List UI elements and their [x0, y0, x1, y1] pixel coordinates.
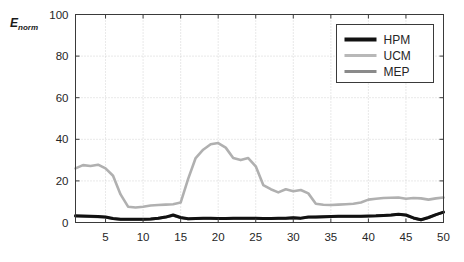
y-tick-label: 100	[49, 9, 68, 21]
y-tick-label: 0	[62, 217, 68, 229]
x-tick-label: 50	[437, 231, 450, 243]
line-chart: 020406080100 5101520253035404550 HPMUCMM…	[0, 0, 464, 262]
x-tick-label: 35	[324, 231, 337, 243]
y-tick-label: 60	[56, 92, 69, 104]
x-tick-label: 25	[249, 231, 262, 243]
chart-legend[interactable]: HPMUCMMEP	[337, 25, 434, 83]
x-tick-label: 15	[174, 231, 187, 243]
legend-label-hpm[interactable]: HPM	[384, 33, 411, 47]
x-tick-label: 5	[102, 231, 108, 243]
x-tick-label: 20	[212, 231, 225, 243]
figure-canvas: Enorm 020406080100 5101520253035404550 H…	[0, 0, 464, 262]
x-tick-label: 30	[287, 231, 300, 243]
x-tick-label: 45	[400, 231, 413, 243]
y-tick-label: 80	[56, 50, 69, 62]
y-tick-label: 40	[56, 133, 69, 145]
x-tick-label: 40	[362, 231, 375, 243]
y-tick-label: 20	[56, 175, 69, 187]
y-axis-tick-labels: 020406080100	[49, 9, 68, 229]
series-line-hpm	[76, 212, 444, 220]
data-series-layer	[76, 143, 444, 220]
x-axis-tick-labels: 5101520253035404550	[102, 231, 450, 243]
x-tick-label: 10	[137, 231, 150, 243]
legend-label-mep[interactable]: MEP	[384, 65, 410, 79]
legend-label-ucm[interactable]: UCM	[384, 49, 411, 63]
series-line-ucm	[76, 143, 444, 207]
